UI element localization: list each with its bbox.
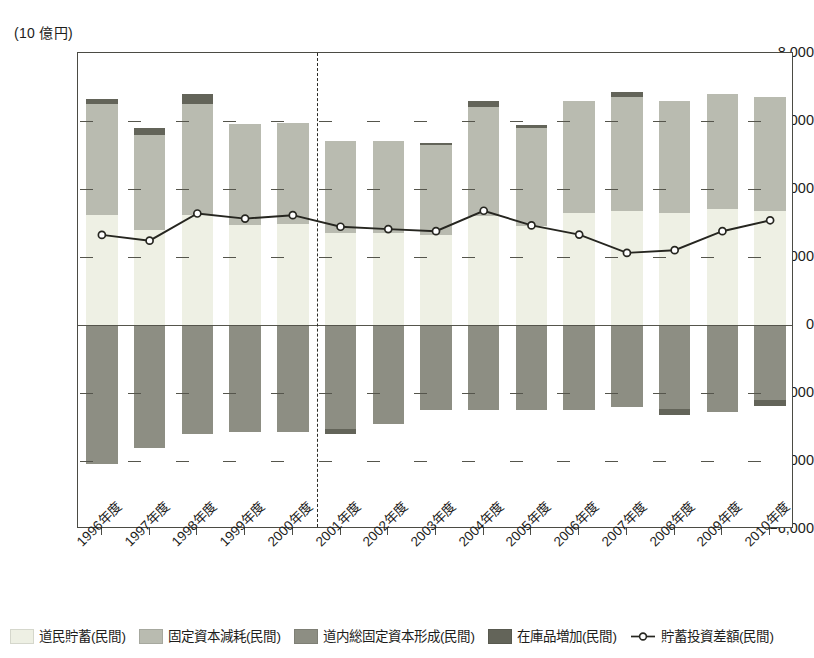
plot-area	[77, 52, 793, 528]
line-marker	[194, 210, 201, 217]
line-marker	[98, 231, 105, 238]
y-axis-unit-caption: (10 億円)	[14, 22, 73, 42]
legend-item[interactable]: 道民貯蓄(民間)	[10, 629, 126, 644]
line-marker	[289, 212, 296, 219]
line-marker	[385, 226, 392, 233]
line-marker	[623, 249, 630, 256]
savings-investment-balance-line	[78, 53, 792, 527]
line-marker	[528, 222, 535, 229]
legend-label: 道内総固定資本形成(民間)	[323, 630, 475, 644]
line-marker	[671, 247, 678, 254]
line-marker	[337, 223, 344, 230]
legend-item[interactable]: 在庫品増加(民間)	[488, 629, 617, 644]
plot-inner	[78, 53, 792, 527]
line-marker	[576, 231, 583, 238]
line-marker	[767, 217, 774, 224]
legend-color-swatch	[10, 629, 34, 644]
legend-line-marker-icon	[630, 630, 656, 643]
line-marker	[242, 215, 249, 222]
line-marker	[480, 207, 487, 214]
legend-label: 貯蓄投資差額(民間)	[661, 630, 774, 644]
chart-legend: 道民貯蓄(民間)固定資本減耗(民間)道内総固定資本形成(民間)在庫品増加(民間)…	[10, 629, 787, 644]
legend-color-swatch	[294, 629, 318, 644]
chart-page: (10 億円) 8,0006,0004,0002,0000−2,000−4,00…	[0, 0, 814, 658]
legend-item[interactable]: 道内総固定資本形成(民間)	[294, 629, 475, 644]
legend-label: 固定資本減耗(民間)	[168, 630, 281, 644]
legend-item[interactable]: 貯蓄投資差額(民間)	[630, 630, 774, 644]
legend-label: 道民貯蓄(民間)	[39, 630, 126, 644]
legend-color-swatch	[488, 629, 512, 644]
legend-label: 在庫品増加(民間)	[517, 630, 617, 644]
legend-color-swatch	[139, 629, 163, 644]
line-marker	[146, 237, 153, 244]
line-marker	[719, 228, 726, 235]
legend-item[interactable]: 固定資本減耗(民間)	[139, 629, 281, 644]
line-marker	[433, 228, 440, 235]
